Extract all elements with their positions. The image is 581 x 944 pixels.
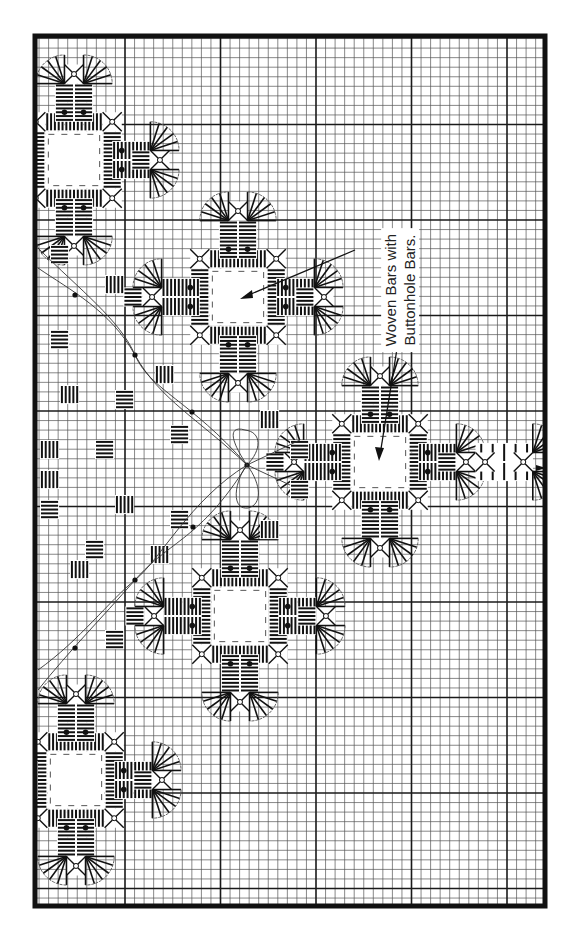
step-block [95,440,114,459]
dove-eye-center [112,816,117,821]
step-block [290,480,309,499]
french-knot [189,623,195,629]
step-block [50,245,69,264]
french-knot [81,205,87,211]
dove-eye-center [197,256,202,261]
french-knot [387,507,393,513]
step-block [50,330,69,349]
french-knot [283,304,289,310]
cut-area-bg [209,268,266,325]
dove-eye-center [416,421,421,426]
step-block [260,410,279,429]
dove-eye-center [276,575,281,580]
french-knot [64,825,70,831]
dove-eye-center [197,333,202,338]
cut-area-bg [351,433,408,490]
dove-eye-center [199,575,204,580]
callout-text: Woven Bars with Buttonhole Bars. [381,228,419,352]
french-knot [81,109,87,115]
dove-eye-center [72,243,77,248]
french-knot [83,825,89,831]
callout-line-2: Buttonhole Bars. [400,234,419,346]
dove-eye-center [157,158,162,163]
step-block [115,495,134,514]
french-knot [64,729,70,735]
dove-eye-center [150,295,155,300]
step-block [115,390,134,409]
step-block [40,440,59,459]
dove-eye-center [321,295,326,300]
french-knot [62,109,68,115]
french-knot [247,661,253,667]
french-knot [189,604,195,610]
dove-eye-center [110,119,115,124]
vine-knot [132,577,137,582]
dove-eye-center [199,652,204,657]
step-block [60,385,79,404]
french-knot [187,304,193,310]
french-knot [121,787,127,793]
step-block [290,440,309,459]
vine-knot [190,524,195,529]
french-knot [285,604,291,610]
dove-eye-center [276,652,281,657]
step-block [105,630,124,649]
vine-knot [72,292,77,297]
vine-knot [72,645,77,650]
french-knot [245,342,251,348]
dove-eye-center [274,333,279,338]
callout-annotation: Woven Bars with Buttonhole Bars. [355,190,445,390]
step-block [85,540,104,559]
dove-eye-center [463,460,468,465]
dove-eye-center [152,614,157,619]
step-block [105,275,124,294]
french-knot [387,411,393,417]
cut-area-bg [211,587,268,644]
french-knot [425,450,431,456]
french-knot [119,167,125,173]
cut-area-bg [45,131,102,188]
french-knot [329,469,335,475]
french-knot [283,285,289,291]
french-knot [245,246,251,252]
step-block [70,560,89,579]
dove-eye-center [72,72,77,77]
dove-eye-center [74,863,79,868]
dove-eye-center [238,699,243,704]
step-block [40,500,59,519]
dove-eye-center [416,498,421,503]
step-block [40,470,59,489]
french-knot [247,565,253,571]
french-knot [228,661,234,667]
dove-eye-center [112,739,117,744]
dove-eye-center [274,256,279,261]
dove-eye-center [521,460,526,465]
dove-eye-center [74,692,79,697]
french-knot [119,148,125,154]
embroidery-chart [0,0,581,944]
french-knot [121,768,127,774]
french-knot [329,450,335,456]
cut-area-bg [47,751,104,808]
step-block [260,520,279,539]
callout-line-1: Woven Bars with [381,234,400,346]
dove-eye-center [378,545,383,550]
step-block [170,425,189,444]
french-knot [228,565,234,571]
dove-eye-center [339,498,344,503]
vine-knot [189,409,194,414]
dove-eye-center [110,196,115,201]
french-knot [226,246,232,252]
dove-eye-center [238,528,243,533]
french-knot [368,411,374,417]
dove-eye-center [483,460,488,465]
dove-eye-center [236,380,241,385]
dove-eye-center [236,209,241,214]
dove-eye-center [339,421,344,426]
step-block [155,365,174,384]
vine-knot [132,352,137,357]
french-knot [187,285,193,291]
dove-eye-center [323,614,328,619]
french-knot [425,469,431,475]
french-knot [226,342,232,348]
